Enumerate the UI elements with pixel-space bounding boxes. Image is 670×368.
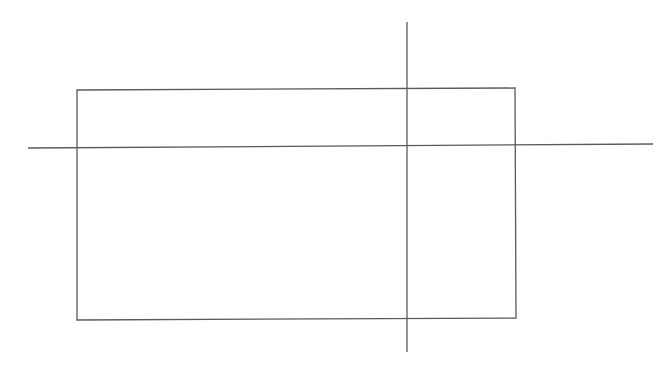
horizontal-line [28,144,653,148]
rectangle-shape [77,88,516,320]
diagram-svg [0,0,670,368]
diagram-canvas [0,0,670,368]
